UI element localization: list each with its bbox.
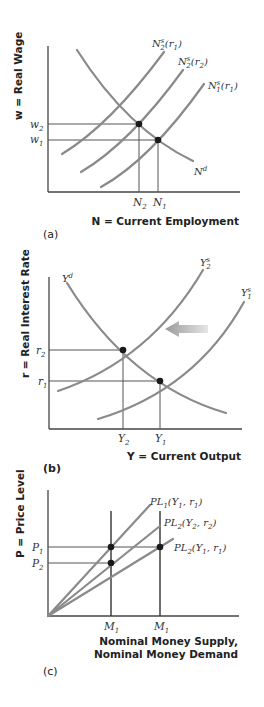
equilibrium-point-w2-n2: [136, 121, 143, 128]
labor-demand-curve-nd: [77, 50, 193, 161]
tick-label-w1: w1: [30, 133, 43, 148]
y-axis-label-real-wage: w = Real Wage: [12, 32, 24, 120]
line-label-pl1-y1-r1: PL1(Y1, r1): [149, 496, 202, 510]
point-p1-m1-right: [157, 544, 164, 551]
money-demand-line-pl1-y1-r1: [48, 505, 150, 616]
line-label-pl2-y2-r2: PL2(Y2, r2): [163, 517, 216, 531]
x-axis-label-line1: Nominal Money Supply,: [99, 635, 238, 647]
panel-label-a: (a): [43, 228, 58, 241]
equilibrium-point-w1-n1: [155, 137, 162, 144]
labor-supply-curve-n2s-r2: [81, 70, 183, 172]
line-label-pl2-y1-r1: PL2(Y1, r1): [173, 542, 226, 556]
tick-label-m1-right: M1: [153, 620, 169, 635]
panel-a-labor-market: Ns2(r1) Ns2(r2) Ns1(r1) Nd w2 w1 N2 N1 w…: [12, 32, 240, 241]
tick-label-r2: r2: [36, 344, 46, 359]
curve-label-nd: Nd: [193, 165, 208, 177]
tick-label-n1: N1: [152, 196, 167, 211]
x-axis-label-current-employment: N = Current Employment: [91, 215, 239, 227]
three-panel-diagram: Ns2(r1) Ns2(r2) Ns1(r1) Nd w2 w1 N2 N1 w…: [0, 0, 264, 707]
leftward-shift-arrow-icon: [165, 321, 208, 337]
tick-label-p1: P1: [31, 541, 44, 556]
point-p1-m1-left: [108, 544, 115, 551]
panel-label-c: (c): [43, 665, 58, 678]
tick-label-y2: Y2: [118, 432, 130, 447]
tick-label-r1: r1: [38, 375, 48, 390]
output-demand-curve-yd: [67, 283, 226, 413]
equilibrium-point-r2-y2: [120, 347, 127, 354]
curve-label-n2s-r1: Ns2(r1): [151, 37, 182, 52]
labor-supply-curve-n2s-r1: [62, 52, 164, 154]
y-axis-label-real-interest-rate: r = Real Interest Rate: [19, 249, 31, 378]
curve-label-n2s-r2: Ns2(r2): [177, 55, 208, 70]
curve-label-yd: Yd: [62, 272, 74, 284]
panel-b-goods-market: Yd Ys2 Ys1 r2 r1 Y2 Y1 r = Real Interest…: [19, 249, 252, 475]
money-demand-line-pl2-y2-r2: [48, 526, 160, 616]
y-axis-label-price-level: P = Price Level: [14, 469, 26, 558]
tick-label-n2: N2: [132, 196, 147, 211]
curve-label-y1s: Ys1: [241, 286, 252, 301]
x-axis-label-current-output: Y = Current Output: [126, 450, 241, 462]
curve-label-y2s: Ys2: [200, 256, 211, 271]
panel-c-money-market: PL1(Y1, r1) PL2(Y2, r2) PL2(Y1, r1) P1 P…: [14, 469, 239, 678]
curve-label-n1s-r1: Ns1(r1): [207, 79, 238, 94]
panel-label-b: (b): [43, 462, 61, 475]
tick-label-y1: Y1: [155, 432, 166, 447]
tick-label-w2: w2: [30, 118, 44, 133]
point-p2-m1-left: [108, 560, 115, 567]
tick-label-p2: P2: [31, 557, 44, 572]
equilibrium-point-r1-y1: [157, 378, 164, 385]
x-axis-label-line2: Nominal Money Demand: [94, 648, 238, 660]
tick-label-m1-left: M1: [103, 620, 119, 635]
